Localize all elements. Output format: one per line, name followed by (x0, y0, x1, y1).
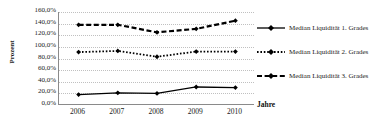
series-lines (59, 12, 255, 105)
x-axis-tick-label: 2006 (58, 107, 98, 117)
data-point-marker (155, 30, 160, 35)
data-series (76, 18, 238, 34)
data-point-marker (115, 22, 120, 27)
data-point-marker (115, 90, 120, 95)
y-axis-tick-label: 100,0% (16, 42, 56, 49)
data-point-marker (233, 18, 238, 23)
legend-label: Median Liquidität 1. Grades (289, 24, 368, 32)
data-series (76, 85, 238, 97)
legend-item[interactable]: Median Liquidität 3. Grades (256, 64, 388, 88)
y-axis-tick-label: 40,0% (16, 77, 56, 84)
legend-item[interactable]: Median Liquidität 1. Grades (256, 16, 388, 40)
x-axis-title: Jahre (257, 100, 275, 109)
data-point-marker (194, 85, 199, 90)
y-axis-tick-label: 120,0% (16, 30, 56, 37)
y-axis-tick-label: 20,0% (16, 88, 56, 95)
legend-marker-icon (256, 47, 286, 57)
data-series (76, 49, 238, 60)
line-chart: Prozent 0,0%20,0%40,0%60,0%80,0%100,0%12… (0, 0, 389, 134)
plot-area (58, 12, 254, 105)
x-axis-tick-labels: 20062007200820092010 (58, 107, 254, 121)
data-point-marker (155, 91, 160, 96)
y-axis-tick-label: 140,0% (16, 19, 56, 26)
data-point-marker (115, 49, 120, 54)
data-point-marker (233, 49, 238, 54)
x-axis-tick-label: 2007 (97, 107, 137, 117)
legend-label: Median Liquidität 2. Grades (289, 48, 368, 56)
data-point-marker (155, 54, 160, 59)
data-point-marker (233, 85, 238, 90)
y-axis-tick-label: 60,0% (16, 65, 56, 72)
x-axis-tick-label: 2009 (175, 107, 215, 117)
legend-marker-icon (256, 71, 286, 81)
data-point-marker (76, 50, 81, 55)
legend-item[interactable]: Median Liquidität 2. Grades (256, 40, 388, 64)
data-point-marker (194, 26, 199, 31)
y-axis-title: Prozent (8, 22, 16, 82)
x-axis-tick-label: 2010 (214, 107, 254, 117)
chart-legend: Median Liquidität 1. GradesMedian Liquid… (256, 16, 388, 88)
legend-marker-icon (256, 23, 286, 33)
y-axis-tick-labels: 0,0%20,0%40,0%60,0%80,0%100,0%120,0%140,… (16, 10, 56, 106)
y-axis-tick-label: 160,0% (16, 7, 56, 14)
data-point-marker (76, 22, 81, 27)
data-point-marker (194, 49, 199, 54)
y-axis-tick-label: 0,0% (16, 100, 56, 107)
legend-label: Median Liquidität 3. Grades (289, 72, 368, 80)
y-axis-tick-label: 80,0% (16, 54, 56, 61)
x-axis-tick-label: 2008 (136, 107, 176, 117)
data-point-marker (76, 92, 81, 97)
